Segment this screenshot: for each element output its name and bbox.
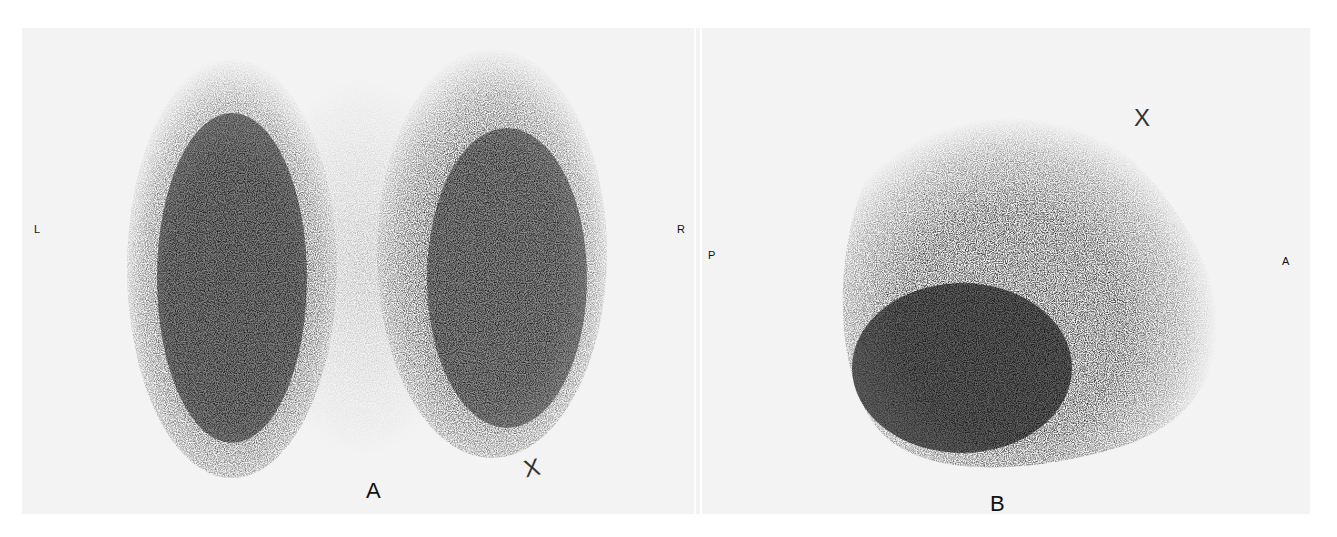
panel-caption-a: A [366, 480, 381, 502]
scan-panel-a: L R A X [22, 28, 700, 514]
x-marker-b: X [1134, 106, 1150, 130]
orientation-label-anterior: A [1282, 256, 1289, 267]
panel-divider [694, 28, 696, 514]
scintigraphy-image-b [702, 28, 1310, 514]
orientation-label-left: L [34, 224, 40, 235]
orientation-label-posterior: P [708, 250, 715, 261]
orientation-label-right: R [677, 224, 685, 235]
scintigraphy-image-a [22, 28, 700, 514]
scan-panel-b: P A B X [702, 28, 1310, 514]
panel-caption-b: B [990, 493, 1005, 514]
